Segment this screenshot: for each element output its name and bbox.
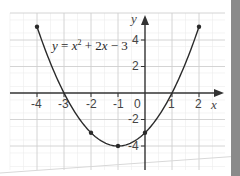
data-point-marker bbox=[89, 131, 93, 135]
tick-label-x-m2: -2 bbox=[86, 97, 97, 111]
tick-label-y-2: 2 bbox=[132, 59, 139, 73]
eq-equals: = bbox=[58, 38, 72, 53]
data-point-marker bbox=[197, 25, 201, 29]
tick-label-x-0: 0 bbox=[134, 97, 141, 111]
tick-label-x-m3: -3 bbox=[58, 97, 69, 111]
tick-label-x-m1: -1 bbox=[113, 97, 124, 111]
x-axis-label: x bbox=[211, 97, 217, 113]
data-point-marker bbox=[35, 25, 39, 29]
tick-label-x-2: 2 bbox=[195, 97, 202, 111]
eq-plus-2: + 2 bbox=[81, 38, 101, 53]
y-axis-label: y bbox=[131, 11, 137, 27]
page-binding-edge bbox=[231, 0, 240, 176]
tick-label-x-1: 1 bbox=[168, 97, 175, 111]
tick-label-x-m4: -4 bbox=[31, 97, 42, 111]
data-point-marker bbox=[143, 131, 147, 135]
tick-label-y-m4: -4 bbox=[128, 139, 139, 153]
tick-label-y-4: 4 bbox=[132, 33, 139, 47]
curve-layer bbox=[0, 0, 240, 176]
graph-figure bbox=[0, 0, 240, 176]
eq-minus-3: − 3 bbox=[108, 38, 128, 53]
equation-label: y = x2 + 2x − 3 bbox=[52, 38, 128, 54]
tick-label-y-m2: -2 bbox=[128, 112, 139, 126]
data-point-marker bbox=[116, 144, 120, 148]
